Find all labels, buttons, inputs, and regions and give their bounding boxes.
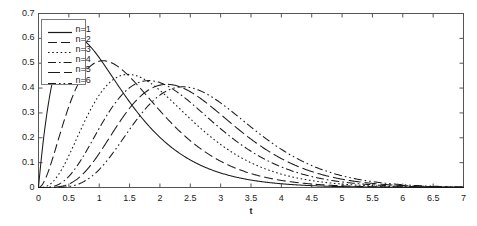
legend-label: n=5: [76, 65, 91, 74]
legend-item-n6[interactable]: n=6: [47, 75, 84, 86]
x-axis-title: t: [231, 207, 271, 216]
y-tick-label: 0.6: [22, 33, 35, 42]
legend: n=1n=2n=3n=4n=5n=6: [41, 19, 86, 85]
y-tick-label: 0.5: [22, 58, 35, 67]
y-tick-label: 0.4: [22, 83, 35, 92]
legend-line-sample: [47, 75, 73, 86]
legend-label: n=4: [76, 55, 91, 64]
curve-n3: [39, 74, 464, 187]
y-tick-label: 0.1: [22, 158, 35, 167]
curve-n6: [39, 87, 464, 188]
legend-label: n=3: [76, 45, 91, 54]
legend-label: n=1: [76, 25, 91, 34]
legend-label: n=6: [76, 76, 91, 85]
y-tick-label: 0.2: [22, 133, 35, 142]
curve-n4: [39, 81, 464, 188]
curve-n5: [39, 84, 464, 187]
data-curves: [39, 37, 464, 187]
axes-frame: [39, 14, 464, 188]
axis-ticks: [39, 14, 464, 188]
legend-label: n=2: [76, 35, 91, 44]
curve-n2: [39, 61, 464, 188]
y-tick-label: 0.7: [22, 9, 35, 18]
y-tick-label: 0.3: [22, 108, 35, 117]
chart-figure: 00.10.20.30.40.50.60.7 00.511.522.533.54…: [0, 0, 477, 226]
curve-n1: [39, 37, 464, 187]
y-tick-label: 0: [29, 183, 34, 192]
x-tick-label: 7: [444, 194, 477, 203]
